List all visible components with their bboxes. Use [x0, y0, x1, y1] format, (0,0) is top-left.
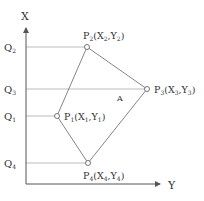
tick-label-q4: Q4 [4, 158, 16, 170]
horizontal-axis-label: Y [167, 179, 176, 192]
tick-label-q3: Q3 [4, 84, 16, 96]
point-label-p3: P3(X3,Y3) [154, 84, 195, 96]
tick-label-q2: Q2 [4, 42, 16, 54]
vertex-marker-p3 [145, 87, 150, 92]
vertex-marker-p2 [85, 45, 90, 50]
point-label-p4: P4(X4,Y4) [83, 170, 124, 182]
tick-label-q1: Q1 [4, 111, 16, 123]
quadrilateral [57, 47, 147, 163]
region-label-a: A [116, 94, 123, 103]
quadrilateral-diagram: X Y Q2 Q3 Q1 Q4 P2(X2,Y2) P3(X3,Y3) P1(X… [0, 0, 204, 201]
vertex-marker-p1 [55, 114, 60, 119]
point-label-p1: P1(X1,Y1) [64, 111, 105, 123]
vertical-axis-label: X [21, 10, 29, 23]
point-label-p2: P2(X2,Y2) [83, 30, 124, 42]
vertex-marker-p4 [86, 161, 91, 166]
